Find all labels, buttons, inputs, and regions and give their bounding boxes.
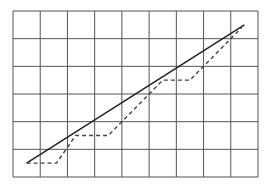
line-chart — [0, 0, 272, 188]
